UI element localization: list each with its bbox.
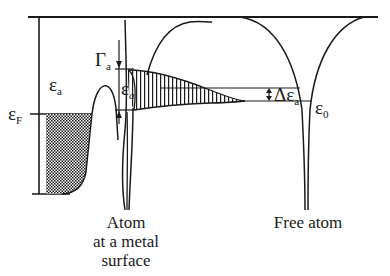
adsorbed-atom-well-right: [129, 108, 133, 210]
fermi-level-label: εF: [8, 104, 22, 123]
gamma-a-label: Γa: [95, 50, 111, 69]
epsilon-0-label: ε0: [315, 98, 328, 117]
free-atom-well-left: [240, 17, 305, 210]
diagram-drawing: [0, 0, 390, 276]
gamma-arrow-down-icon: [116, 61, 122, 68]
adsorbate-potential-rise: [147, 22, 212, 75]
epsilon-a-level-label: εa: [121, 79, 134, 98]
atom-at-surface-caption: Atom at a metal surface: [86, 213, 166, 270]
epsilon-a-metal-label: εa: [49, 75, 62, 94]
adsorbed-atom-well-left: [122, 20, 126, 210]
delta-arrow-up-icon: [266, 88, 272, 93]
free-atom-caption: Free atom: [266, 213, 350, 232]
energy-diagram: εa εF Γa εa Δεa ε0 Atom at a metal surfa…: [0, 0, 390, 276]
delta-epsilon-a-label: Δεa: [274, 85, 299, 104]
delta-arrow-down-icon: [266, 96, 272, 101]
surface-barrier-curve: [92, 86, 118, 140]
filled-band-region: [46, 114, 92, 194]
